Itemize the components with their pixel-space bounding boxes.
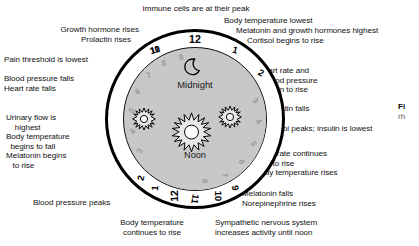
caption-label: Fi: [398, 102, 405, 111]
annotation-immune-cells: Immune cells are at their peak: [106, 4, 286, 14]
clock-hour-outer-12-1: 12: [187, 33, 203, 45]
sun-icon-large-center: [171, 112, 212, 153]
clock-hour-outer-1-14: 1: [148, 180, 162, 197]
clock-hour-outer-11-12: 11: [188, 190, 202, 208]
annotation-body-temp-lowest: Body temperature lowest: [224, 16, 414, 26]
figure-caption-clipped: Fi rh: [398, 102, 405, 121]
clock-hour-inner-9-22: 9: [172, 51, 189, 65]
clock-hour-outer-10-11: 10: [212, 187, 224, 203]
annotation-prolactin-falls: Prolactin falls: [262, 104, 419, 114]
clock-hour-outer-9-10: 9: [228, 180, 242, 197]
annotation-body-temp-continues: Body temperature continues to rise: [96, 218, 208, 237]
caption-body: rh: [398, 112, 405, 121]
circadian-clock: Midnight Noon 11121234567891011121234567…: [105, 29, 285, 209]
annotation-cortisol-peaks: Cortisol peaks; insulin is lowest: [262, 124, 419, 134]
clock-hour-inner-8-9: 8: [197, 173, 210, 190]
sun-icon-small-right: [218, 105, 242, 129]
annotation-urinary-flow: Urinary flow is highest Body temperature…: [6, 113, 108, 171]
clock-hour-outer-12-13: 12: [168, 188, 180, 204]
annotation-sympathetic-nervous: Sympathetic nervous system increases act…: [215, 218, 375, 237]
circadian-clock-figure: Immune cells are at their peak Growth ho…: [0, 0, 419, 246]
